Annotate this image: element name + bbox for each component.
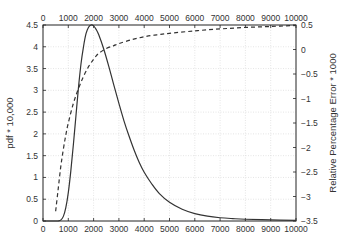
x-axis-top: 0100020003000400050006000700080009000100… [41,13,308,28]
x-top-tick-label: 3000 [109,13,128,23]
x-top-tick-label: 8000 [236,13,255,23]
x-top-tick-label: 2000 [84,13,103,23]
y-left-tick-label: 2 [33,129,38,139]
y-left-tick-label: 3.5 [26,64,38,74]
y-axis-right: −3.5−3−2.5−2−1.5−1−0.500.5 [293,20,318,226]
y-left-tick-label: 2.5 [26,107,38,117]
x-top-tick-label: 7000 [211,13,230,23]
x-tick-label: 3000 [109,224,128,234]
y-left-tick-label: 0.5 [26,194,38,204]
x-tick-label: 5000 [160,224,179,234]
y-right-tick-label: −2.5 [301,167,318,177]
y-left-tick-label: 4.5 [26,20,38,30]
y-left-tick-label: 1.5 [26,151,38,161]
dual-axis-line-chart: 0100020003000400050006000700080009000100… [0,0,345,238]
y-right-tick-label: −1 [301,94,311,104]
y-left-tick-label: 3 [33,85,38,95]
x-top-tick-label: 0 [41,13,46,23]
x-tick-label: 9000 [261,224,280,234]
x-top-tick-label: 9000 [261,13,280,23]
y-axis-left-label: pdf * 10,000 [4,97,15,148]
y-right-tick-label: −3 [301,192,311,202]
x-top-tick-label: 4000 [135,13,154,23]
x-tick-label: 1000 [59,224,78,234]
y-left-tick-label: 4 [33,42,38,52]
x-top-tick-label: 6000 [185,13,204,23]
y-right-tick-label: −0.5 [301,69,318,79]
y-right-tick-label: 0.5 [301,20,313,30]
y-left-tick-label: 0 [33,216,38,226]
x-tick-label: 4000 [135,224,154,234]
x-tick-label: 7000 [211,224,230,234]
y-right-tick-label: −3.5 [301,216,318,226]
y-right-tick-label: −2 [301,143,311,153]
y-right-tick-label: 0 [301,45,306,55]
grid-lines [43,25,296,221]
x-tick-label: 8000 [236,224,255,234]
x-tick-label: 6000 [185,224,204,234]
y-right-tick-label: −1.5 [301,118,318,128]
y-left-tick-label: 1 [33,172,38,182]
relative-error-curve-dashed [56,25,296,211]
x-tick-label: 2000 [84,224,103,234]
x-top-tick-label: 5000 [160,13,179,23]
x-top-tick-label: 1000 [59,13,78,23]
x-tick-label: 0 [41,224,46,234]
y-axis-right-label: Relative Percentage Error * 1000 [327,53,338,192]
